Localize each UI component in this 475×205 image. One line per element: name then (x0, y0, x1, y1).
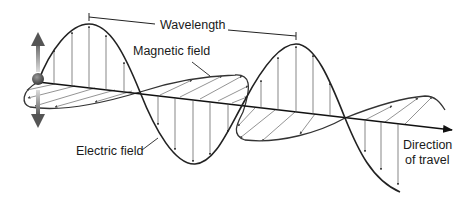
propagation-axis (38, 82, 452, 130)
wavelength-label: Wavelength (160, 18, 226, 33)
em-wave-diagram (0, 0, 475, 205)
direction-label-line1: Direction (403, 138, 452, 153)
electric-field-leader (142, 138, 158, 150)
magnetic-field-label: Magnetic field (133, 44, 210, 59)
direction-label-line2: of travel (405, 153, 449, 168)
electric-field-wave (38, 24, 400, 192)
magnetic-field-wave (24, 75, 445, 141)
magnetic-field-leader (192, 62, 210, 76)
electric-field-vectors (54, 26, 398, 185)
electric-field-label: Electric field (76, 144, 143, 159)
charge-sphere-icon (32, 73, 44, 85)
